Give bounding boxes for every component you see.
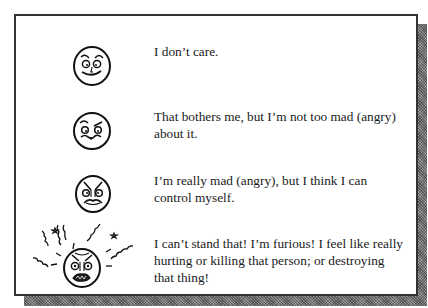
scale-text-1: I don’t care. (154, 43, 404, 60)
annoyed-face-icon (70, 109, 114, 153)
scale-text-3: I’m really mad (angry), but I think I ca… (154, 172, 404, 206)
calm-face-icon (70, 44, 114, 88)
furious-face-icon (28, 222, 154, 292)
anger-scale-card: I don’t care. That bothers me, but I’m n… (14, 14, 418, 296)
scale-text-4: I can’t stand that! I’m furious! I feel … (154, 235, 404, 286)
scale-text-2: That bothers me, but I’m not too mad (an… (154, 108, 404, 142)
angry-face-icon (72, 172, 114, 216)
